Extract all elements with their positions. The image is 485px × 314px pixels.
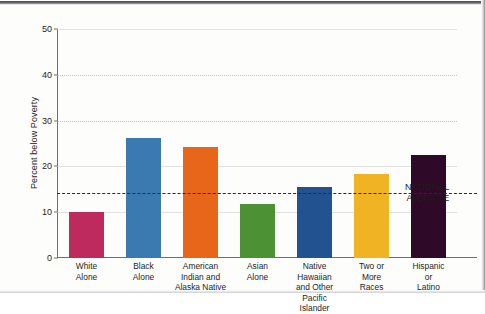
y-tick-label-0: 0 (47, 253, 52, 263)
x-axis-label-line: Native Hawaiian (287, 261, 342, 282)
bar-slot (172, 29, 229, 258)
bar[interactable] (183, 147, 219, 258)
y-tick-label-10: 10 (42, 207, 52, 217)
bar-slot (400, 29, 457, 258)
x-axis-label-line: Black (116, 261, 171, 272)
x-axis-label-line: American (173, 261, 228, 272)
bar-slot (58, 29, 115, 258)
x-axis-label-line: Alone (116, 272, 171, 283)
x-axis-label-line: Pacific Islander (287, 293, 342, 314)
national-average-label-line: AVERAGE (405, 193, 449, 204)
bar-series (58, 29, 457, 258)
x-axis-label-line: Alone (59, 272, 114, 283)
x-axis-label: AmericanIndian andAlaska Native (172, 261, 229, 314)
x-axis-label-line: Two or (344, 261, 399, 272)
scan-edge-right (481, 0, 485, 293)
x-axis-label-line: Alone (230, 272, 285, 283)
x-axis-label: AsianAlone (229, 261, 286, 314)
bar[interactable] (240, 204, 276, 258)
bar-slot (229, 29, 286, 258)
x-axis-label-line: Indian and (173, 272, 228, 283)
y-tick-label-50: 50 (42, 24, 52, 34)
x-axis-label-line: Asian (230, 261, 285, 272)
x-axis-label: BlackAlone (115, 261, 172, 314)
x-axis-label: Two orMoreRaces (343, 261, 400, 314)
x-axis-label: WhiteAlone (58, 261, 115, 314)
x-axis-line-extension (457, 257, 477, 258)
y-tick-label-20: 20 (42, 161, 52, 171)
y-axis-title: Percent below Poverty (29, 63, 39, 223)
bar-slot (286, 29, 343, 258)
x-axis-label: HispanicorLatino (400, 261, 457, 314)
x-axis-label-line: More (344, 272, 399, 283)
plot-area: 01020304050 NATIONALAVERAGE (57, 29, 457, 258)
bar-slot (343, 29, 400, 258)
x-axis-label: Native Hawaiianand OtherPacific Islander (286, 261, 343, 314)
y-tick-label-30: 30 (42, 116, 52, 126)
bar[interactable] (126, 138, 162, 258)
bar[interactable] (354, 174, 390, 258)
x-axis-label-line: Alaska Native (173, 282, 228, 293)
bar-slot (115, 29, 172, 258)
scan-edge-top (0, 0, 485, 5)
x-axis-label-line: Latino (401, 282, 456, 293)
national-average-label-line: NATIONAL (405, 182, 449, 193)
x-axis-label-line: or (401, 272, 456, 283)
x-axis-label-line: and Other (287, 282, 342, 293)
x-axis-category-labels: WhiteAloneBlackAloneAmericanIndian andAl… (58, 261, 457, 314)
x-axis-label-line: White (59, 261, 114, 272)
national-average-label: NATIONALAVERAGE (405, 182, 449, 204)
bar[interactable] (411, 155, 447, 258)
bar[interactable] (69, 212, 105, 258)
x-axis-label-line: Races (344, 282, 399, 293)
x-axis-label-line: Hispanic (401, 261, 456, 272)
y-tick-label-40: 40 (42, 70, 52, 80)
bar[interactable] (297, 187, 333, 258)
